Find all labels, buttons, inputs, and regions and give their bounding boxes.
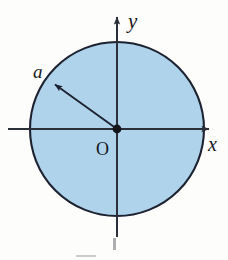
origin-point bbox=[113, 125, 122, 134]
caption-fragment-rule bbox=[76, 255, 96, 257]
origin-label: O bbox=[96, 139, 109, 159]
y-axis-label: y bbox=[126, 9, 138, 33]
figure-container: y x a O bbox=[0, 0, 228, 260]
caption-fragment-bar bbox=[113, 238, 116, 250]
circle-diagram: y x a O bbox=[0, 0, 228, 260]
x-axis-label: x bbox=[207, 133, 217, 155]
radius-label: a bbox=[33, 61, 43, 82]
